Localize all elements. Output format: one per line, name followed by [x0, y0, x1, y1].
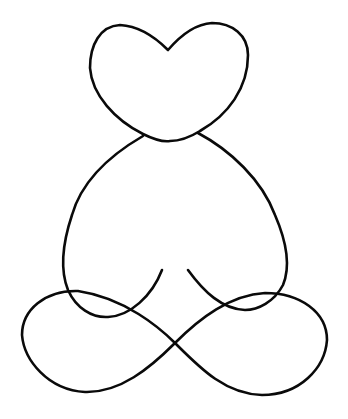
meditating-heart-figure: [0, 0, 348, 419]
torso-right: [188, 133, 287, 310]
heart-head: [90, 23, 248, 141]
crossed-legs: [22, 291, 327, 395]
